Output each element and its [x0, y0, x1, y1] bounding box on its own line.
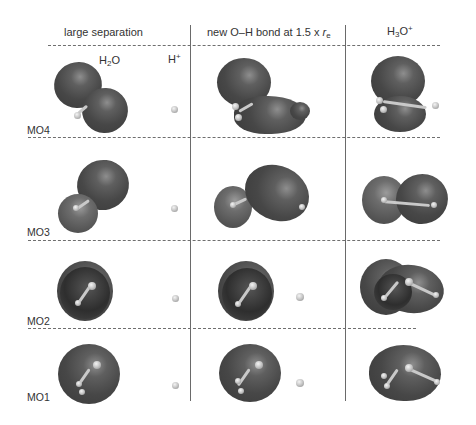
- row-label-mo3: MO3: [27, 226, 50, 238]
- header-r-subscript: e: [326, 31, 330, 40]
- mo2-proton-left: [172, 295, 179, 302]
- header-new-oh-bond-text: new O–H bond at 1.5 x: [207, 26, 323, 38]
- hydrogen-atom: [74, 112, 81, 119]
- label-proton: H+: [168, 52, 181, 65]
- mo2-proton-mid: [296, 293, 304, 301]
- hydrogen-atom: [235, 301, 241, 307]
- header-hydronium: H3O+: [387, 24, 413, 39]
- label-proton-h: H: [168, 53, 176, 65]
- hydrogen-atom: [376, 97, 383, 104]
- hydrogen-atom: [432, 102, 439, 109]
- hydrogen-atom: [434, 379, 440, 385]
- mo1-proton-mid: [296, 379, 304, 387]
- mo4-proton: [171, 106, 178, 113]
- hydrogen-atom: [381, 197, 387, 203]
- label-water: H2O: [99, 54, 120, 68]
- row-separator-mo2-mo1: [28, 328, 416, 329]
- oxygen-atom: [405, 278, 413, 286]
- column-divider-1: [190, 25, 191, 401]
- hydrogen-atom: [75, 300, 81, 306]
- hydrogen-atom: [431, 202, 437, 208]
- label-water-h: H: [99, 54, 107, 66]
- header-new-oh-bond: new O–H bond at 1.5 x re: [207, 26, 331, 40]
- header-hydronium-sup: +: [408, 24, 413, 33]
- header-large-separation: large separation: [64, 26, 143, 38]
- oxygen-atom: [93, 361, 101, 369]
- hydrogen-atom: [433, 292, 439, 298]
- hydrogen-atom: [76, 381, 82, 387]
- row-label-mo1: MO1: [27, 391, 50, 403]
- hydrogen-atom: [238, 388, 244, 394]
- label-proton-sup: +: [176, 52, 181, 61]
- hydrogen-atom: [380, 106, 387, 113]
- hydrogen-atom: [381, 295, 387, 301]
- hydrogen-atom: [232, 103, 239, 110]
- hydrogen-atom: [235, 378, 241, 384]
- hydrogen-atom: [79, 389, 85, 395]
- mo3-proton: [171, 205, 178, 212]
- orbital-lobe-tip: [290, 102, 310, 120]
- hydrogen-atom: [381, 373, 387, 379]
- oxygen-atom: [255, 361, 263, 369]
- hydrogen-atom: [235, 114, 242, 121]
- oxygen-atom: [88, 282, 96, 290]
- hydrogen-atom: [230, 202, 236, 208]
- row-separator-mo3-mo2: [28, 240, 440, 241]
- hydrogen-atom: [299, 204, 305, 210]
- orbital-lobe: [392, 170, 452, 228]
- header-hydronium-h: H: [387, 25, 395, 37]
- row-label-mo4: MO4: [27, 124, 50, 136]
- oxygen-atom: [249, 282, 257, 290]
- row-label-mo2: MO2: [27, 315, 50, 327]
- orbital-lobe: [58, 194, 98, 233]
- mo1-proton-left: [172, 382, 179, 389]
- orbital-sphere: [219, 344, 281, 402]
- oxygen-atom: [405, 364, 413, 372]
- column-divider-2: [345, 25, 346, 401]
- orbital-lobe: [236, 155, 319, 232]
- header-hydronium-o: O: [399, 25, 408, 37]
- row-separator-top: [48, 45, 440, 46]
- hydrogen-atom: [384, 383, 390, 389]
- hydrogen-atom: [73, 205, 79, 211]
- orbital-teardrop: [369, 345, 441, 401]
- orbital-sphere: [58, 344, 120, 404]
- row-separator-mo4-mo3: [28, 137, 440, 138]
- label-water-o: O: [111, 54, 120, 66]
